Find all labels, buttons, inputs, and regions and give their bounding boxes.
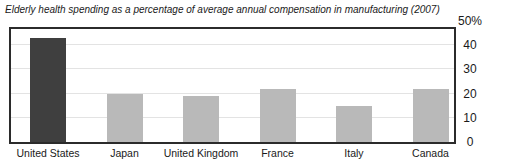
gridline-30 <box>11 68 454 69</box>
y-tick-40: 40 <box>463 38 476 52</box>
bar-united-kingdom <box>183 96 219 142</box>
bar-chart: Elderly health spending as a percentage … <box>0 0 509 168</box>
x-label-italy: Italy <box>344 147 363 159</box>
gridline-40 <box>11 44 454 45</box>
plot-area <box>9 27 456 144</box>
x-label-japan: Japan <box>110 147 139 159</box>
bar-italy <box>336 106 372 142</box>
bar-united-states <box>30 38 66 142</box>
x-label-france: France <box>261 147 294 159</box>
x-label-canada: Canada <box>412 147 449 159</box>
y-tick-0: 0 <box>467 135 474 149</box>
y-tick-50: 50% <box>458 14 482 28</box>
bar-japan <box>107 94 143 142</box>
bar-canada <box>413 89 449 142</box>
gridline-20 <box>11 93 454 94</box>
x-label-united-kingdom: United Kingdom <box>164 147 239 159</box>
y-tick-30: 30 <box>463 62 476 76</box>
x-label-united-states: United States <box>16 147 79 159</box>
chart-title: Elderly health spending as a percentage … <box>5 4 440 15</box>
bar-france <box>260 89 296 142</box>
y-tick-10: 10 <box>463 111 476 125</box>
y-tick-20: 20 <box>463 87 476 101</box>
gridline-10 <box>11 117 454 118</box>
